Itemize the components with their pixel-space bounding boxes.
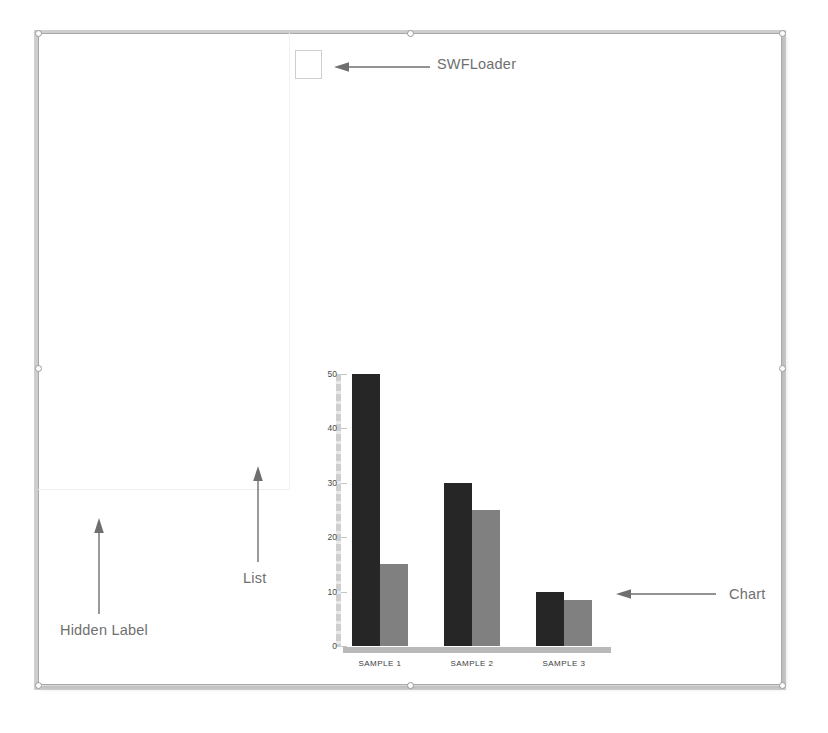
annotation-label-chart: Chart [729, 586, 765, 602]
chart-bar-group [444, 374, 500, 646]
chart-bar[interactable] [352, 374, 380, 646]
annotation-label-swfloader: SWFLoader [437, 56, 516, 72]
chart-x-label: SAMPLE 2 [450, 659, 493, 668]
selection-handle-top-center[interactable] [407, 30, 414, 37]
chart-bar[interactable] [380, 564, 408, 646]
selection-handle-bottom-right[interactable] [779, 682, 786, 689]
chart-y-tick-label: 20 [328, 532, 337, 542]
swfloader-arrow [334, 60, 430, 74]
chart-x-label: SAMPLE 3 [542, 659, 585, 668]
selection-handle-bottom-center[interactable] [407, 682, 414, 689]
chart-bar[interactable] [444, 483, 472, 646]
chart-component[interactable]: 01020304050 SAMPLE 1SAMPLE 2SAMPLE 3 [300, 363, 620, 673]
annotation-label-list: List [243, 570, 266, 586]
chart-arrow [616, 587, 716, 601]
hidden-label-arrow [92, 518, 106, 614]
annotation-label-hidden: Hidden Label [60, 622, 148, 638]
diagram-canvas: SWFLoader Chart List Hidden Label 010203… [0, 0, 828, 733]
chart-y-tick-label: 40 [328, 423, 337, 433]
chart-plot-area [338, 374, 614, 646]
chart-y-tick-label: 0 [332, 641, 337, 651]
chart-bar[interactable] [472, 510, 500, 646]
chart-bar[interactable] [536, 592, 564, 646]
chart-x-label: SAMPLE 1 [358, 659, 401, 668]
selection-handle-top-left[interactable] [35, 30, 42, 37]
chart-y-tick-label: 50 [328, 369, 337, 379]
selection-handle-bottom-left[interactable] [35, 682, 42, 689]
selection-handle-middle-right[interactable] [779, 365, 786, 372]
list-arrow [251, 466, 265, 562]
chart-y-tick-label: 30 [328, 478, 337, 488]
chart-x-axis [343, 647, 611, 653]
chart-bar-group [536, 374, 592, 646]
chart-bar[interactable] [564, 600, 592, 646]
swfloader-component[interactable] [295, 50, 322, 79]
selection-handle-top-right[interactable] [779, 30, 786, 37]
selection-handle-middle-left[interactable] [35, 365, 42, 372]
chart-y-tick-label: 10 [328, 587, 337, 597]
chart-bar-group [352, 374, 408, 646]
